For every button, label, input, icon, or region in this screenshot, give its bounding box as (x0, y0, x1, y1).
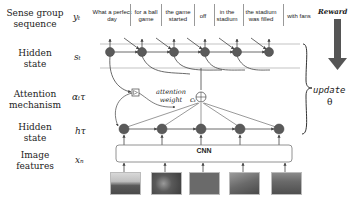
reward-label: Reward (318, 7, 347, 16)
image-thumbnail-1 (110, 172, 141, 195)
image-thumbnail-3 (189, 172, 220, 195)
theta-label: θ (327, 97, 332, 107)
context-vector-label: cₜ (190, 96, 196, 104)
image-thumbnail-2 (151, 172, 182, 195)
update-label: update (313, 85, 346, 95)
cnn-label: CNN (116, 147, 292, 154)
image-thumbnail-5 (271, 172, 302, 195)
image-thumbnail-4 (229, 172, 260, 195)
decoder-chain (110, 38, 270, 92)
attention-weight-label: attention weight (154, 88, 188, 104)
